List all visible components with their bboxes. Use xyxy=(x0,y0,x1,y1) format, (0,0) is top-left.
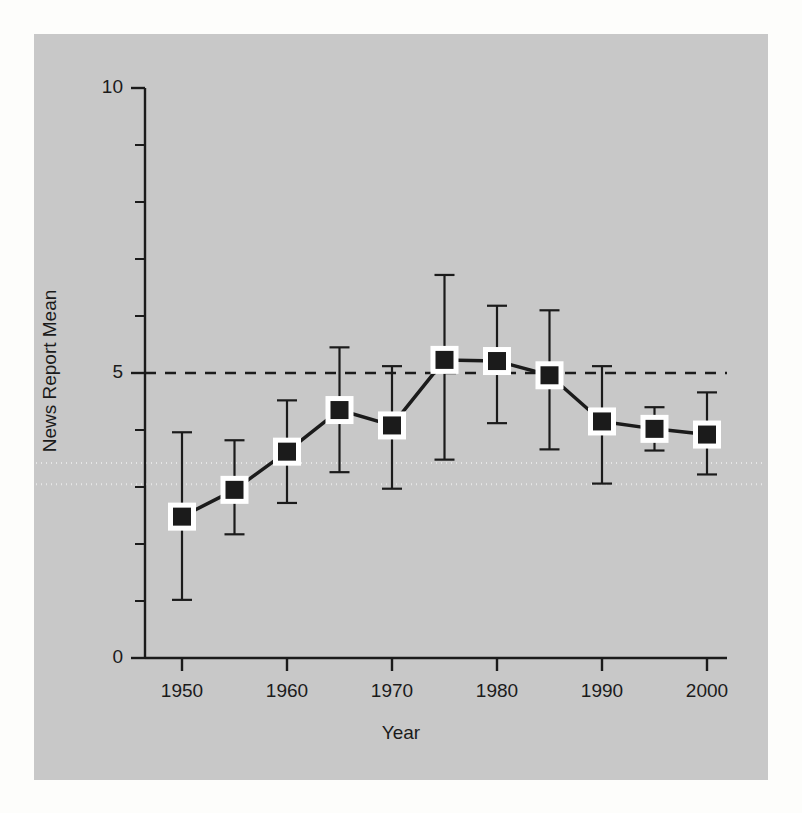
data-point-1950 xyxy=(168,503,196,531)
x-axis-title: Year xyxy=(0,722,802,744)
chart-figure: 195019601970198019902000 0510 Year News … xyxy=(0,0,802,813)
y-tick-label-5: 5 xyxy=(77,361,123,383)
data-point-1995 xyxy=(641,415,669,443)
error-bars xyxy=(172,275,717,600)
data-point-1980 xyxy=(483,347,511,375)
x-tick-label-1980: 1980 xyxy=(457,680,537,702)
y-axis-title-wrapper: News Report Mean xyxy=(0,0,80,746)
data-point-1955 xyxy=(221,476,249,504)
x-tick-label-2000: 2000 xyxy=(667,680,747,702)
x-tick-label-1960: 1960 xyxy=(247,680,327,702)
data-point-1970 xyxy=(378,411,406,439)
x-tick-label-1970: 1970 xyxy=(352,680,432,702)
y-tick-label-10: 10 xyxy=(77,76,123,98)
data-point-1985 xyxy=(536,361,564,389)
x-tick-label-1950: 1950 xyxy=(142,680,222,702)
y-tick-label-0: 0 xyxy=(77,646,123,668)
axis-ticks xyxy=(131,88,707,671)
x-tick-label-1990: 1990 xyxy=(562,680,642,702)
data-point-1960 xyxy=(273,438,301,466)
data-point-1965 xyxy=(326,396,354,424)
data-point-2000 xyxy=(693,421,721,449)
y-axis-title: News Report Mean xyxy=(39,201,61,541)
data-point-1975 xyxy=(431,346,459,374)
data-point-1990 xyxy=(588,407,616,435)
